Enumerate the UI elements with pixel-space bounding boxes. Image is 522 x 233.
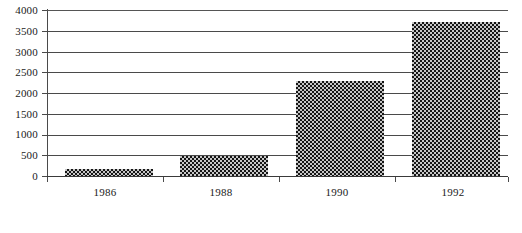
x-axis-tick-label: 1986: [65, 186, 145, 198]
y-axis-tick-label: 1000: [0, 129, 38, 140]
bar-chart-figure: 4000 3500 3000 2500 2000 1500 1000 500 0: [0, 0, 522, 233]
x-axis-line: [47, 176, 508, 177]
y-axis-tick-label: 1500: [0, 109, 38, 120]
y-axis-tick-label: 0: [0, 171, 38, 182]
bar-1988: [180, 156, 268, 176]
y-axis-tick-label: 2500: [0, 67, 38, 78]
bar-fill-pattern: [65, 169, 153, 176]
x-axis-tick-label: 1990: [297, 186, 377, 198]
y-axis-tick-label: 3500: [0, 26, 38, 37]
x-axis-tick-mark: [395, 177, 396, 182]
y-axis-tick-label: 3000: [0, 47, 38, 58]
figure-caption: [56, 221, 496, 233]
bar-fill-pattern: [180, 156, 268, 176]
x-axis-tick-mark: [508, 177, 509, 182]
x-axis-tick-mark: [279, 177, 280, 182]
x-axis-tick-mark: [163, 177, 164, 182]
x-axis-tick-mark: [47, 177, 48, 182]
gridline-4000: [47, 10, 508, 11]
bar-1986: [65, 169, 153, 176]
bar-fill-pattern: [296, 81, 384, 176]
plot-area: [47, 10, 508, 176]
bar-fill-pattern: [412, 22, 500, 176]
y-axis-tick-label: 2000: [0, 88, 38, 99]
bar-1992: [412, 22, 500, 176]
y-axis-tick-label: 500: [0, 150, 38, 161]
x-axis-tick-label: 1988: [181, 186, 261, 198]
y-axis-tick-label: 4000: [0, 5, 38, 16]
bar-1990: [296, 81, 384, 176]
x-axis-tick-label: 1992: [413, 186, 493, 198]
